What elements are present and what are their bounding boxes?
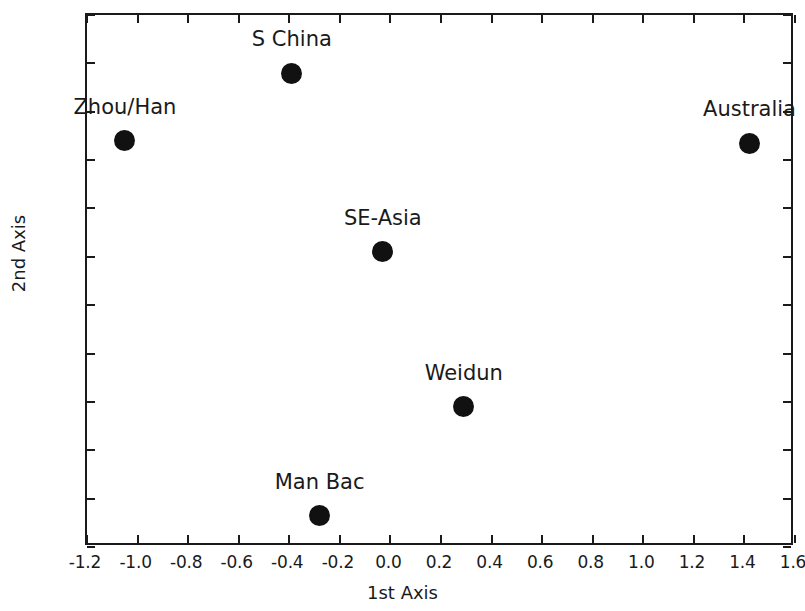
x-tick-mark-top bbox=[794, 15, 796, 23]
x-tick-mark-top bbox=[440, 15, 442, 23]
data-point[interactable] bbox=[453, 396, 474, 417]
y-tick-mark-right bbox=[783, 256, 791, 258]
x-tick-label: 0.8 bbox=[577, 552, 603, 572]
x-tick-mark-top bbox=[491, 15, 493, 23]
x-tick-mark bbox=[137, 535, 139, 543]
x-tick-label: 1.2 bbox=[679, 552, 705, 572]
x-tick-mark bbox=[86, 535, 88, 543]
x-tick-mark bbox=[541, 535, 543, 543]
y-tick-mark-right bbox=[783, 401, 791, 403]
data-point[interactable] bbox=[114, 130, 135, 151]
x-tick-label: -0.8 bbox=[170, 552, 202, 572]
y-tick-mark-right bbox=[783, 14, 791, 16]
y-tick-mark-right bbox=[783, 498, 791, 500]
scatter-plot-figure: Zhou/HanS ChinaAustraliaSE-AsiaWeidunMan… bbox=[0, 0, 805, 611]
x-tick-mark bbox=[642, 535, 644, 543]
y-tick-mark bbox=[87, 207, 95, 209]
y-tick-mark bbox=[87, 62, 95, 64]
x-tick-label: 1.0 bbox=[628, 552, 654, 572]
x-tick-mark bbox=[491, 535, 493, 543]
x-tick-label: -0.2 bbox=[322, 552, 354, 572]
x-tick-mark bbox=[238, 535, 240, 543]
x-tick-mark-top bbox=[743, 15, 745, 23]
x-tick-label: 0.0 bbox=[375, 552, 401, 572]
x-tick-mark-top bbox=[642, 15, 644, 23]
data-point[interactable] bbox=[372, 241, 393, 262]
x-tick-label: 0.2 bbox=[426, 552, 452, 572]
data-point[interactable] bbox=[739, 133, 760, 154]
y-tick-mark-right bbox=[783, 62, 791, 64]
x-tick-mark-top bbox=[137, 15, 139, 23]
data-point-label: S China bbox=[252, 27, 332, 51]
x-tick-mark-top bbox=[541, 15, 543, 23]
x-tick-mark-top bbox=[86, 15, 88, 23]
x-tick-mark bbox=[440, 535, 442, 543]
y-tick-mark bbox=[87, 14, 95, 16]
x-tick-label: -1.2 bbox=[69, 552, 101, 572]
x-tick-mark-top bbox=[693, 15, 695, 23]
y-tick-mark bbox=[87, 353, 95, 355]
data-point[interactable] bbox=[281, 63, 302, 84]
data-point-label: SE-Asia bbox=[344, 206, 422, 230]
x-tick-mark bbox=[389, 535, 391, 543]
x-tick-mark-top bbox=[339, 15, 341, 23]
x-tick-mark bbox=[339, 535, 341, 543]
y-tick-mark bbox=[87, 401, 95, 403]
x-tick-label: 1.4 bbox=[729, 552, 755, 572]
data-point-label: Australia bbox=[703, 97, 796, 121]
y-tick-mark-right bbox=[783, 546, 791, 548]
y-tick-mark bbox=[87, 449, 95, 451]
x-tick-label: 0.4 bbox=[476, 552, 502, 572]
data-point-label: Man Bac bbox=[275, 470, 365, 494]
x-tick-mark bbox=[794, 535, 796, 543]
data-point-label: Zhou/Han bbox=[73, 95, 176, 119]
x-axis-title: 1st Axis bbox=[0, 582, 805, 603]
plot-area: Zhou/HanS ChinaAustraliaSE-AsiaWeidunMan… bbox=[85, 13, 793, 545]
x-tick-mark bbox=[187, 535, 189, 543]
x-tick-mark bbox=[693, 535, 695, 543]
y-tick-mark-right bbox=[783, 207, 791, 209]
y-tick-mark-right bbox=[783, 159, 791, 161]
y-tick-mark bbox=[87, 498, 95, 500]
x-tick-mark-top bbox=[187, 15, 189, 23]
y-tick-mark-right bbox=[783, 304, 791, 306]
x-tick-mark-top bbox=[238, 15, 240, 23]
x-tick-mark-top bbox=[389, 15, 391, 23]
y-tick-mark bbox=[87, 546, 95, 548]
y-axis-title: 2nd Axis bbox=[8, 154, 29, 354]
data-point-label: Weidun bbox=[425, 361, 503, 385]
x-tick-label: 0.6 bbox=[527, 552, 553, 572]
x-tick-label: -0.4 bbox=[271, 552, 303, 572]
x-tick-mark bbox=[288, 535, 290, 543]
y-tick-mark bbox=[87, 304, 95, 306]
x-tick-label: -0.6 bbox=[221, 552, 253, 572]
y-tick-mark-right bbox=[783, 353, 791, 355]
x-tick-label: -1.0 bbox=[119, 552, 151, 572]
x-tick-mark bbox=[743, 535, 745, 543]
y-tick-mark-right bbox=[783, 449, 791, 451]
x-tick-mark-top bbox=[288, 15, 290, 23]
data-point[interactable] bbox=[309, 505, 330, 526]
x-tick-label: 1.6 bbox=[780, 552, 805, 572]
x-tick-mark bbox=[592, 535, 594, 543]
y-tick-mark bbox=[87, 256, 95, 258]
y-tick-mark bbox=[87, 159, 95, 161]
x-tick-mark-top bbox=[592, 15, 594, 23]
